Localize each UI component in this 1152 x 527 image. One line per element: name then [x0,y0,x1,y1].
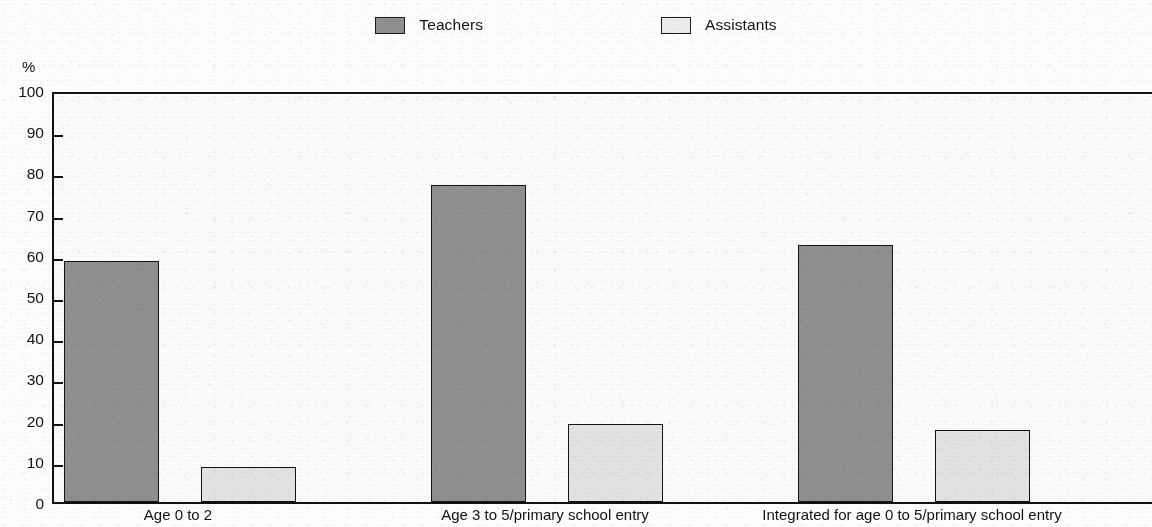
y-axis-tick-90: 90 [4,124,44,142]
y-axis-tick-20: 20 [4,413,44,431]
y-axis-tick-60: 60 [4,248,44,266]
y-axis-tick-30: 30 [4,371,44,389]
plot-area [52,92,1152,504]
x-axis-label-group-2: Age 3 to 5/primary school entry [441,506,649,523]
y-tick-mark [54,341,63,343]
legend-label-assistants: Assistants [705,16,777,34]
y-axis-tick-80: 80 [4,165,44,183]
y-tick-mark [54,465,63,467]
chart-legend: Teachers Assistants [0,8,1152,42]
bar-teachers-group-2 [431,185,526,502]
y-axis-tick-70: 70 [4,207,44,225]
y-axis-tick-10: 10 [4,454,44,472]
y-axis-tick-50: 50 [4,289,44,307]
y-tick-mark [54,382,63,384]
legend-swatch-assistants-icon [661,17,691,34]
y-axis-unit-label: % [22,58,35,75]
y-tick-mark [54,424,63,426]
bar-assistants-group-2 [568,424,663,502]
y-tick-mark [54,135,63,137]
x-axis-category-labels: Age 0 to 2Age 3 to 5/primary school entr… [52,506,1152,527]
bar-chart: Teachers Assistants % 100908070605040302… [0,0,1152,527]
legend-entry-teachers: Teachers [375,16,483,34]
x-axis-label-group-3: Integrated for age 0 to 5/primary school… [762,506,1061,523]
bar-teachers-group-1 [64,261,159,502]
x-axis-label-group-1: Age 0 to 2 [144,506,212,523]
legend-swatch-teachers-icon [375,17,405,34]
y-tick-mark [54,259,63,261]
y-tick-mark [54,300,63,302]
bar-assistants-group-1 [201,467,296,502]
bar-teachers-group-3 [798,245,893,503]
bar-assistants-group-3 [935,430,1030,502]
y-tick-mark [54,218,63,220]
y-axis-tick-100: 100 [4,83,44,101]
y-tick-mark [54,176,63,178]
legend-label-teachers: Teachers [419,16,483,34]
y-axis-tick-0: 0 [4,495,44,513]
y-axis-tick-40: 40 [4,330,44,348]
legend-entry-assistants: Assistants [661,16,777,34]
